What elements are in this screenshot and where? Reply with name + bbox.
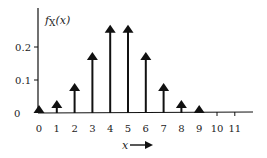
y-axis-label: fX(x) <box>44 14 70 28</box>
x-axis-label: x <box>122 139 153 152</box>
right-arrow-icon <box>130 141 153 149</box>
impulse-arrow-3 <box>87 52 98 113</box>
pmf-chart: 0.20.10 01234567891011 fX(x) x <box>0 0 267 158</box>
x-tick-label: 9 <box>196 123 202 134</box>
impulse-arrow-4 <box>105 25 116 113</box>
impulse-arrow-0 <box>34 105 45 113</box>
x-tick-label: 7 <box>160 123 166 134</box>
x-tick-label: 1 <box>54 123 60 134</box>
arrowhead-icon <box>158 83 169 91</box>
impulse-arrow-9 <box>194 105 205 113</box>
x-tick-label: 10 <box>211 123 224 134</box>
impulse-stems <box>34 25 205 113</box>
x-tick-label: 2 <box>71 123 77 134</box>
x-tick-label: 3 <box>89 123 95 134</box>
x-axis-label-text: x <box>122 139 129 152</box>
arrowhead-icon <box>194 105 205 113</box>
arrowhead-icon <box>105 25 116 33</box>
x-tick-label: 6 <box>143 123 149 134</box>
x-tick-label: 5 <box>125 123 131 134</box>
x-axis-ticks: 01234567891011 <box>36 112 241 134</box>
x-tick-label: 11 <box>228 123 241 134</box>
arrowhead-icon <box>123 25 134 33</box>
impulse-arrow-7 <box>158 83 169 113</box>
y-tick-label: 0 <box>14 108 20 119</box>
impulse-arrow-5 <box>123 25 134 113</box>
arrowhead-icon <box>34 105 45 113</box>
arrowhead-icon <box>51 100 62 108</box>
impulse-arrow-1 <box>51 100 62 113</box>
impulse-arrow-6 <box>140 52 151 113</box>
y-tick-label: 0.1 <box>15 75 31 86</box>
arrowhead-icon <box>87 52 98 60</box>
impulse-arrow-8 <box>176 100 187 113</box>
arrowhead-icon <box>69 83 80 91</box>
x-tick-label: 4 <box>107 123 113 134</box>
impulse-arrow-2 <box>69 83 80 113</box>
x-tick-label: 0 <box>36 123 42 134</box>
y-tick-label: 0.2 <box>15 42 31 53</box>
arrowhead-icon <box>176 100 187 108</box>
arrowhead-icon <box>140 52 151 60</box>
y-axis-ticks: 0.20.10 <box>14 42 38 119</box>
x-tick-label: 8 <box>178 123 184 134</box>
